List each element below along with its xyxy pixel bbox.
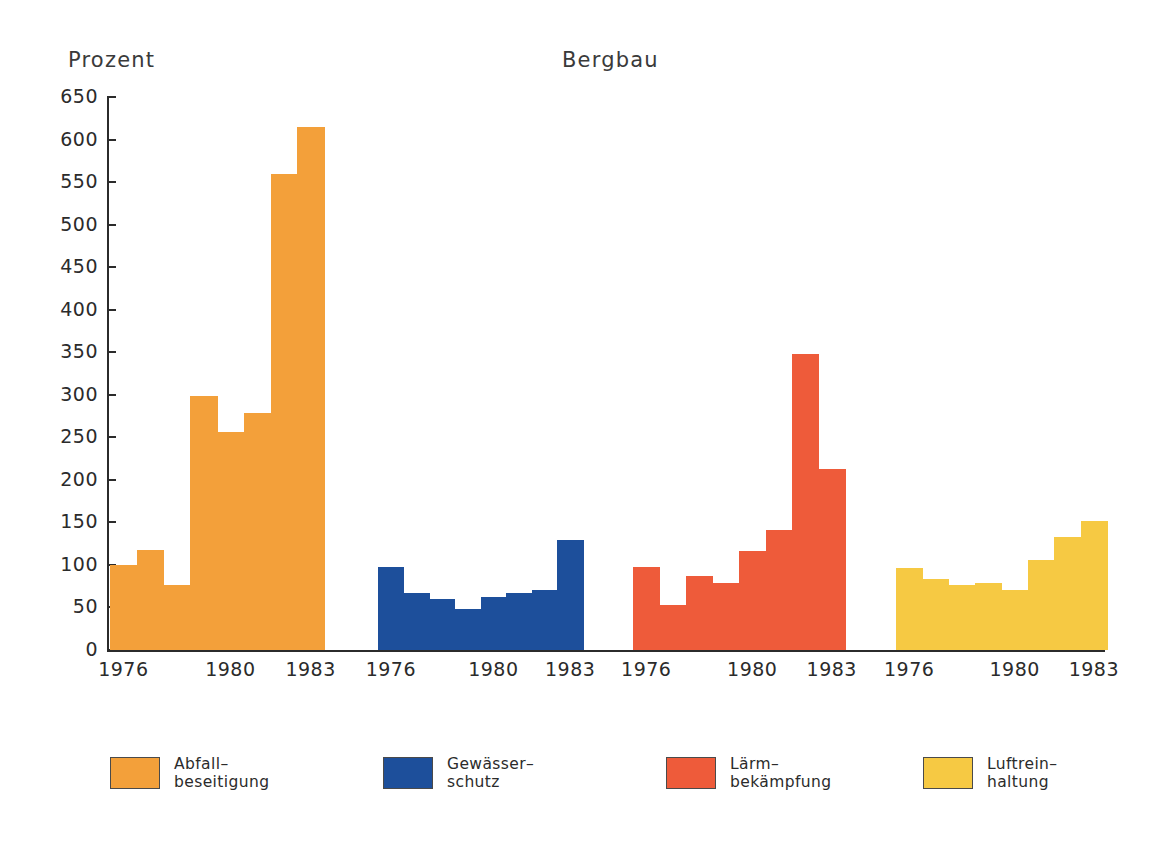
bar	[557, 540, 583, 650]
bar	[1054, 537, 1081, 650]
bar	[378, 567, 404, 650]
legend-label-line2: bekämpfung	[730, 773, 831, 791]
bar	[739, 551, 766, 650]
x-axis-line	[107, 650, 1105, 652]
y-axis-tick-label: 500	[42, 213, 98, 235]
chart-canvas: Prozent Bergbau 050100150200250300350400…	[0, 0, 1176, 849]
bar-group-inner	[378, 97, 583, 650]
bar	[819, 469, 846, 650]
legend-label-line1: Luftrein–	[987, 755, 1058, 773]
y-axis-tick-label: 50	[42, 595, 98, 617]
bar-group	[378, 97, 583, 650]
legend-item[interactable]: Luftrein–haltung	[923, 755, 1058, 791]
y-axis-tick-label: 400	[42, 298, 98, 320]
bar	[404, 593, 430, 650]
bar	[660, 605, 687, 650]
x-axis-tick-label: 1983	[545, 658, 595, 680]
bar	[713, 583, 740, 650]
x-axis-tick-label: 1976	[884, 658, 934, 680]
bar-group-inner	[896, 97, 1107, 650]
y-axis-tick-label: 100	[42, 553, 98, 575]
x-axis-tick-label: 1980	[205, 658, 255, 680]
x-axis-tick-label: 1980	[468, 658, 518, 680]
legend-swatch-laermbekaempfung	[666, 757, 716, 789]
x-axis-tick-label: 1980	[990, 658, 1040, 680]
bar	[429, 599, 455, 650]
x-axis-tick-label: 1976	[366, 658, 416, 680]
x-axis-tick-label: 1983	[285, 658, 335, 680]
plot-area: 050100150200250300350400450500550600650 …	[0, 0, 1176, 700]
legend-label-line2: beseitigung	[174, 773, 269, 791]
y-axis-tick-label: 450	[42, 255, 98, 277]
bar	[244, 413, 271, 650]
legend-item[interactable]: Lärm–bekämpfung	[666, 755, 831, 791]
legend-label-line2: haltung	[987, 773, 1058, 791]
y-axis-tick-label: 0	[42, 638, 98, 660]
legend-item[interactable]: Abfall–beseitigung	[110, 755, 269, 791]
bar-group	[633, 97, 845, 650]
bar	[506, 593, 532, 650]
legend-swatch-abfallbeseitigung	[110, 757, 160, 789]
bar	[481, 597, 507, 650]
bar	[110, 565, 137, 650]
bar	[271, 174, 298, 650]
bar	[217, 432, 244, 650]
legend-label-line1: Abfall–	[174, 755, 269, 773]
bar	[297, 127, 324, 650]
bar	[949, 585, 976, 650]
legend-label-line1: Gewässer–	[447, 755, 534, 773]
bar	[1002, 590, 1029, 650]
y-axis-tick-label: 150	[42, 510, 98, 532]
bar	[1081, 521, 1108, 650]
legend-label: Gewässer–schutz	[447, 755, 534, 791]
y-axis-tick-label: 200	[42, 468, 98, 490]
x-axis-tick-label: 1976	[98, 658, 148, 680]
bar	[190, 396, 217, 650]
y-axis-tick-label: 600	[42, 128, 98, 150]
bar	[975, 583, 1002, 650]
x-axis-tick-label: 1980	[727, 658, 777, 680]
y-axis-tick-label: 250	[42, 425, 98, 447]
bar	[164, 585, 191, 651]
legend-label-line1: Lärm–	[730, 755, 831, 773]
bar	[766, 530, 793, 650]
y-axis-tick-label: 550	[42, 170, 98, 192]
x-axis-tick-label: 1976	[621, 658, 671, 680]
bar	[633, 567, 660, 650]
y-axis-tick-label: 300	[42, 383, 98, 405]
bar	[532, 590, 558, 650]
legend-label: Luftrein–haltung	[987, 755, 1058, 791]
bar-group	[110, 97, 324, 650]
x-axis-tick-label: 1983	[807, 658, 857, 680]
legend-label-line2: schutz	[447, 773, 534, 791]
legend-swatch-luftreinhaltung	[923, 757, 973, 789]
bar	[896, 568, 923, 650]
x-axis-tick-label: 1983	[1069, 658, 1119, 680]
chart-legend: Abfall–beseitigungGewässer–schutzLärm–be…	[0, 755, 1176, 835]
legend-item[interactable]: Gewässer–schutz	[383, 755, 534, 791]
bar	[137, 550, 164, 650]
bar-group-inner	[110, 97, 324, 650]
bar	[792, 354, 819, 650]
y-axis-tick-label: 650	[42, 85, 98, 107]
bar	[455, 609, 481, 650]
bar-group-inner	[633, 97, 845, 650]
bar	[686, 576, 713, 650]
bar	[922, 579, 949, 650]
bar	[1028, 560, 1055, 650]
legend-label: Abfall–beseitigung	[174, 755, 269, 791]
legend-swatch-gewaesserschutz	[383, 757, 433, 789]
y-axis-tick-label: 350	[42, 340, 98, 362]
legend-label: Lärm–bekämpfung	[730, 755, 831, 791]
bar-group	[896, 97, 1107, 650]
